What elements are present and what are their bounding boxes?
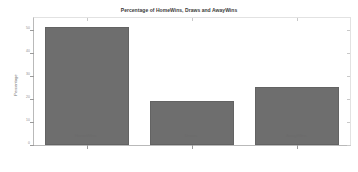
y-tick-label: 30 — [16, 73, 30, 76]
y-tick-label: 20 — [16, 96, 30, 99]
bar-draws — [150, 101, 234, 145]
y-tick-right — [347, 99, 350, 100]
x-axis-label-awaywins: AwayWins — [286, 133, 307, 138]
x-tick-top — [87, 18, 88, 21]
y-tick-right — [347, 53, 350, 54]
y-tick — [30, 122, 34, 123]
figure-canvas: Percentage of HomeWins, Draws and AwayWi… — [0, 0, 358, 172]
y-tick — [30, 53, 34, 54]
y-tick-label: 10 — [16, 119, 30, 122]
y-tick — [30, 30, 34, 31]
y-tick-label: 50 — [16, 27, 30, 30]
y-tick — [30, 76, 34, 77]
y-tick-label: 0 — [16, 142, 30, 145]
y-tick-right — [347, 30, 350, 31]
y-tick-right — [347, 122, 350, 123]
y-tick — [30, 145, 34, 146]
chart-title: Percentage of HomeWins, Draws and AwayWi… — [0, 7, 358, 13]
y-tick-right — [347, 145, 350, 146]
y-tick-label: 40 — [16, 50, 30, 53]
bar-series — [34, 18, 350, 145]
plot-area — [33, 17, 351, 146]
bar-homewins — [45, 27, 129, 145]
x-tick-top — [297, 18, 298, 21]
y-tick — [30, 99, 34, 100]
y-tick-right — [347, 76, 350, 77]
x-tick — [87, 145, 88, 149]
x-tick — [192, 145, 193, 149]
x-tick-top — [192, 18, 193, 21]
y-axis-label: Percentage — [13, 55, 18, 115]
x-axis-label-draws: Draws — [185, 133, 198, 138]
x-axis-label-homewins: HomeWins — [75, 133, 97, 138]
x-tick — [297, 145, 298, 149]
